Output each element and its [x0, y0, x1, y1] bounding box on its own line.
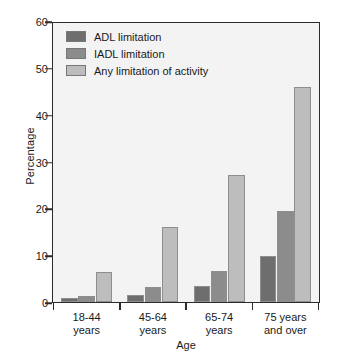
x-axis-title: Age	[52, 339, 320, 351]
x-axis-tick-label: 75 yearsand over	[245, 311, 325, 336]
y-axis-tick-label: 40	[8, 110, 48, 122]
y-axis-tick-label: 60	[8, 16, 48, 28]
bar	[78, 296, 95, 302]
bar	[162, 227, 179, 302]
y-axis-tick-label: 30	[8, 157, 48, 169]
bar	[96, 272, 113, 302]
bar	[228, 175, 245, 301]
bar	[211, 271, 228, 302]
bar	[145, 287, 162, 301]
x-axis-tick-label-line: 75 years	[245, 311, 325, 324]
y-axis-tick-mark	[45, 209, 52, 211]
legend-swatch	[66, 31, 86, 42]
bar	[61, 298, 78, 302]
y-axis-tick-label: 50	[8, 63, 48, 75]
legend-label: ADL limitation	[94, 31, 161, 43]
legend-swatch	[66, 48, 86, 59]
bar	[127, 295, 144, 301]
bar	[260, 256, 277, 301]
y-axis-tick-mark	[45, 162, 52, 164]
legend-swatch	[66, 65, 86, 76]
y-axis-tick-mark	[45, 115, 52, 117]
y-axis-tick-label: 10	[8, 250, 48, 262]
y-axis-tick-label: 20	[8, 203, 48, 215]
bar-group	[252, 24, 318, 302]
y-axis-tick-label: 0	[8, 297, 48, 309]
legend-item: ADL limitation	[66, 29, 208, 44]
y-axis-tick-mark	[45, 255, 52, 257]
x-axis-tick-mark	[318, 303, 320, 310]
legend-item: IADL limitation	[66, 46, 208, 61]
x-axis-tick-mark	[252, 303, 254, 310]
chart-legend: ADL limitationIADL limitationAny limitat…	[66, 29, 208, 80]
bar	[277, 211, 294, 302]
bar-chart-figure: Percentage 0102030405060 18-44years45-64…	[0, 0, 344, 360]
bar	[194, 286, 211, 302]
y-axis-tick-mark	[45, 21, 52, 23]
x-axis-tick-mark	[53, 303, 55, 310]
legend-item: Any limitation of activity	[66, 63, 208, 78]
legend-label: IADL limitation	[94, 48, 165, 60]
y-axis-tick-mark	[45, 68, 52, 70]
x-axis-tick-label-line: and over	[245, 324, 325, 337]
y-axis-tick-mark	[45, 302, 52, 304]
legend-label: Any limitation of activity	[94, 65, 208, 77]
x-axis-tick-mark	[119, 303, 121, 310]
bar	[294, 87, 311, 301]
x-axis-tick-mark	[185, 303, 187, 310]
